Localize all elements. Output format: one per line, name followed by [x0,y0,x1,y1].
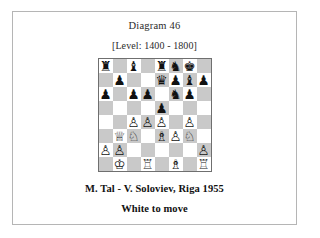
square-f4[interactable] [169,115,183,129]
square-h3[interactable] [197,129,211,143]
square-h1[interactable]: ♖ [197,157,211,171]
square-f7[interactable]: ♟ [169,73,183,87]
white-pawn-icon[interactable]: ♙ [155,115,169,129]
square-e7[interactable]: ♛ [155,73,169,87]
white-knight-icon[interactable]: ♘ [127,129,141,143]
square-d2[interactable] [141,143,155,157]
square-d3[interactable] [141,129,155,143]
white-pawn-icon[interactable]: ♙ [169,129,183,143]
square-g1[interactable] [183,157,197,171]
square-d7[interactable] [141,73,155,87]
square-h8[interactable] [197,59,211,73]
square-a5[interactable] [99,101,113,115]
black-pawn-icon[interactable]: ♟ [155,101,169,115]
square-e8[interactable]: ♜ [155,59,169,73]
black-pawn-icon[interactable]: ♟ [183,87,197,101]
game-caption: M. Tal - V. Soloviev, Riga 1955 [85,183,224,195]
square-b2[interactable]: ♙ [113,143,127,157]
level-label: [Level: 1400 - 1800] [112,40,197,51]
square-b8[interactable] [113,59,127,73]
square-c1[interactable] [127,157,141,171]
square-c6[interactable]: ♟ [127,87,141,101]
square-g7[interactable]: ♝ [183,73,197,87]
square-e6[interactable] [155,87,169,101]
square-a6[interactable]: ♟ [99,87,113,101]
square-b6[interactable] [113,87,127,101]
black-queen-icon[interactable]: ♛ [155,73,169,87]
square-d1[interactable]: ♖ [141,157,155,171]
square-b4[interactable] [113,115,127,129]
white-bishop-icon[interactable]: ♗ [155,129,169,143]
white-pawn-icon[interactable]: ♙ [183,115,197,129]
square-c8[interactable]: ♝ [127,59,141,73]
square-d5[interactable] [141,101,155,115]
square-d8[interactable] [141,59,155,73]
white-queen-icon[interactable]: ♕ [113,129,127,143]
square-d6[interactable]: ♟ [141,87,155,101]
square-g3[interactable]: ♘ [183,129,197,143]
square-h4[interactable] [197,115,211,129]
square-h2[interactable]: ♙ [197,143,211,157]
square-a1[interactable] [99,157,113,171]
square-f2[interactable] [169,143,183,157]
square-b3[interactable]: ♕ [113,129,127,143]
white-rook-icon[interactable]: ♖ [197,157,211,171]
square-c2[interactable] [127,143,141,157]
black-king-icon[interactable]: ♚ [183,59,197,73]
square-g8[interactable]: ♚ [183,59,197,73]
black-bishop-icon[interactable]: ♝ [183,73,197,87]
square-e1[interactable] [155,157,169,171]
square-a8[interactable]: ♜ [99,59,113,73]
square-e3[interactable]: ♗ [155,129,169,143]
square-f3[interactable]: ♙ [169,129,183,143]
black-bishop-icon[interactable]: ♝ [127,59,141,73]
white-pawn-icon[interactable]: ♙ [197,143,211,157]
black-pawn-icon[interactable]: ♟ [99,87,113,101]
square-a3[interactable] [99,129,113,143]
square-g6[interactable]: ♟ [183,87,197,101]
square-g5[interactable] [183,101,197,115]
square-e2[interactable] [155,143,169,157]
black-pawn-icon[interactable]: ♟ [127,87,141,101]
black-rook-icon[interactable]: ♜ [99,59,113,73]
square-h5[interactable] [197,101,211,115]
white-rook-icon[interactable]: ♖ [141,157,155,171]
page-title: Diagram 46 [129,20,181,32]
square-f6[interactable]: ♞ [169,87,183,101]
square-c4[interactable]: ♙ [127,115,141,129]
black-knight-icon[interactable]: ♞ [169,59,183,73]
square-h6[interactable] [197,87,211,101]
square-c7[interactable] [127,73,141,87]
black-rook-icon[interactable]: ♜ [155,59,169,73]
square-h7[interactable]: ♟ [197,73,211,87]
black-pawn-icon[interactable]: ♟ [141,87,155,101]
square-e4[interactable]: ♙ [155,115,169,129]
white-pawn-icon[interactable]: ♙ [113,143,127,157]
square-e5[interactable]: ♟ [155,101,169,115]
black-pawn-icon[interactable]: ♟ [169,73,183,87]
white-pawn-icon[interactable]: ♙ [127,115,141,129]
square-f1[interactable]: ♗ [169,157,183,171]
black-knight-icon[interactable]: ♞ [169,87,183,101]
white-pawn-icon[interactable]: ♙ [141,115,155,129]
white-king-icon[interactable]: ♔ [113,157,127,171]
black-pawn-icon[interactable]: ♟ [197,73,211,87]
square-c3[interactable]: ♘ [127,129,141,143]
square-d4[interactable]: ♙ [141,115,155,129]
square-f8[interactable]: ♞ [169,59,183,73]
black-pawn-icon[interactable]: ♟ [113,73,127,87]
white-pawn-icon[interactable]: ♙ [99,143,113,157]
square-a7[interactable] [99,73,113,87]
square-b1[interactable]: ♔ [113,157,127,171]
square-b5[interactable] [113,101,127,115]
square-b7[interactable]: ♟ [113,73,127,87]
square-a4[interactable] [99,115,113,129]
white-bishop-icon[interactable]: ♗ [169,157,183,171]
chess-board[interactable]: ♜♝♜♞♚♟♛♟♝♟♟♟♟♞♟♟♙♙♙♙♕♘♗♙♘♙♙♙♔♖♗♖ [99,59,211,171]
square-g2[interactable] [183,143,197,157]
white-knight-icon[interactable]: ♘ [183,129,197,143]
square-f5[interactable] [169,101,183,115]
square-g4[interactable]: ♙ [183,115,197,129]
square-c5[interactable] [127,101,141,115]
square-a2[interactable]: ♙ [99,143,113,157]
